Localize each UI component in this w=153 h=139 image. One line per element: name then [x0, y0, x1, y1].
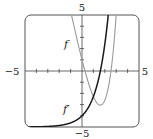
chart: 5 −5 −5 5 f f′: [0, 0, 153, 139]
y-max-label: 5: [79, 2, 85, 13]
x-max-label: 5: [142, 66, 148, 77]
label-f: f: [63, 38, 70, 51]
label-f-prime: f′: [62, 103, 70, 116]
y-min-label: −5: [75, 128, 90, 139]
curve-f: [68, 0, 117, 105]
x-min-label: −5: [5, 66, 20, 77]
